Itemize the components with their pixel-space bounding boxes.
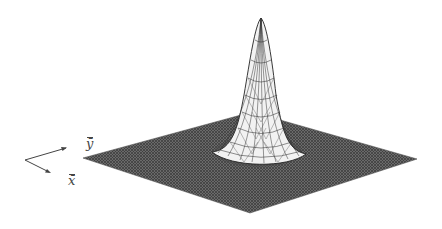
- axis-indicator: [25, 147, 67, 173]
- surface-plot: [0, 0, 442, 229]
- axis-label-y: ȳ: [86, 136, 93, 151]
- axis-label-x: x̄: [68, 173, 75, 188]
